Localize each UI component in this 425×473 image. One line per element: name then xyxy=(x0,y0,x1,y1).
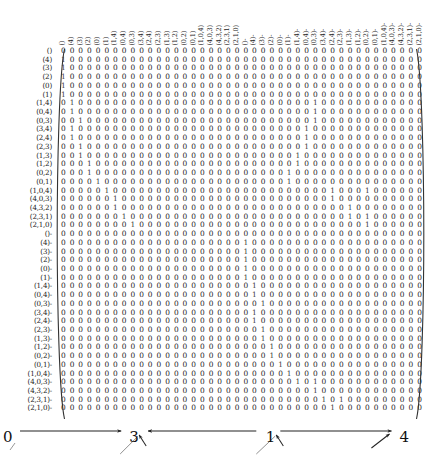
matrix-cell: 0 xyxy=(407,404,416,413)
graph-node-1: 1 xyxy=(266,430,276,445)
column-label-text: (2,3,1) xyxy=(224,25,231,46)
column-label-text: ()- xyxy=(241,39,248,46)
matrix-cell: 0 xyxy=(224,404,233,413)
column-label-text: (4) xyxy=(68,37,75,46)
matrix-cell: 1 xyxy=(328,404,337,413)
matrix-cell: 0 xyxy=(155,404,164,413)
matrix-cell: 0 xyxy=(337,404,346,413)
column-label-text: (1,3)- xyxy=(346,29,353,46)
column-label: (0,3)- xyxy=(310,0,319,46)
matrix-cell: 0 xyxy=(320,404,329,413)
column-label-text: (0,1)- xyxy=(372,29,379,46)
row-label-column: ()(4)(3)(2)(0)(1)(1,4)(0,4)(0,3)(3,4)(2,… xyxy=(0,47,54,413)
column-label-text: (2,4)- xyxy=(328,29,335,46)
column-label: (2,3,1) xyxy=(223,0,232,46)
column-label: (1,0,4) xyxy=(197,0,206,46)
column-label-text: (0)- xyxy=(276,35,283,46)
column-label: (4) xyxy=(67,0,76,46)
column-label: (1)- xyxy=(284,0,293,46)
column-label-text: (0,3)- xyxy=(311,29,318,46)
column-label-text: (1,2)- xyxy=(354,29,361,46)
column-label: (2)- xyxy=(267,0,276,46)
matrix-cell: 0 xyxy=(146,404,155,413)
column-label-text: (2,4) xyxy=(146,31,153,46)
graph-node-4: 4 xyxy=(399,430,409,445)
matrix-cell: 0 xyxy=(311,404,320,413)
matrix-cell: 0 xyxy=(181,404,190,413)
column-label-text: (2)- xyxy=(267,35,274,46)
matrix-cell: 0 xyxy=(346,404,355,413)
matrix-cell: 0 xyxy=(259,404,268,413)
column-label: (2,1,0)- xyxy=(414,0,423,46)
matrix-cell: 0 xyxy=(68,404,77,413)
column-label: (2,3,1)- xyxy=(406,0,415,46)
matrix-cell: 0 xyxy=(363,404,372,413)
column-label-text: (4,3,2) xyxy=(215,25,222,46)
column-label-text: (1,0,4) xyxy=(198,25,205,46)
column-label-text: (0) xyxy=(94,37,101,46)
column-label-text: (2,3) xyxy=(155,31,162,46)
matrix-cell: 0 xyxy=(354,404,363,413)
matrix-cell: 0 xyxy=(302,404,311,413)
column-label-text: (2,3)- xyxy=(337,29,344,46)
matrix-cell: 0 xyxy=(415,404,424,413)
column-label-text: (4,0,3)- xyxy=(389,23,396,46)
matrix-cell: 0 xyxy=(172,404,181,413)
column-label-text: (1,2) xyxy=(172,31,179,46)
matrix-cell: 0 xyxy=(85,404,94,413)
column-label-text: (1,3) xyxy=(163,31,170,46)
graph-edges xyxy=(0,424,423,473)
column-label-text: (1,4)- xyxy=(294,29,301,46)
matrix-cell: 0 xyxy=(233,404,242,413)
matrix-cell: 0 xyxy=(94,404,103,413)
graph-node-0: 0 xyxy=(3,430,13,445)
column-label: (0,2)- xyxy=(362,0,371,46)
matrix-cell: 0 xyxy=(294,404,303,413)
column-label: (0,3) xyxy=(128,0,137,46)
column-label: (1,4)- xyxy=(293,0,302,46)
column-label: (4,3,2)- xyxy=(397,0,406,46)
matrix-cell: 0 xyxy=(129,404,138,413)
column-label: (4,0,3) xyxy=(206,0,215,46)
matrix-cell: 0 xyxy=(268,404,277,413)
matrix-cell: 0 xyxy=(276,404,285,413)
column-label-text: (4,3,2)- xyxy=(398,23,405,46)
column-label: (2,4) xyxy=(145,0,154,46)
column-label-text: (2,1,0)- xyxy=(415,23,422,46)
matrix-cell: 0 xyxy=(241,404,250,413)
column-label-text: (1,0,4)- xyxy=(380,23,387,46)
column-label: (3,4)- xyxy=(319,0,328,46)
column-label-text: (0,1) xyxy=(189,31,196,46)
column-label-text: (2) xyxy=(85,37,92,46)
column-label-text: (3,4) xyxy=(137,31,144,46)
column-label-text: (1,4) xyxy=(111,31,118,46)
matrix-body: 0000000000000000000000000000000000000000… xyxy=(56,47,423,421)
column-label: (0,2) xyxy=(180,0,189,46)
matrix-cell: 0 xyxy=(372,404,381,413)
column-label: (1,3)- xyxy=(345,0,354,46)
column-label: (0,1)- xyxy=(371,0,380,46)
column-label: (2) xyxy=(84,0,93,46)
column-label: (0)- xyxy=(275,0,284,46)
column-label: (0,4) xyxy=(119,0,128,46)
matrix-cell: 0 xyxy=(285,404,294,413)
matrix-rows: 0000000000000000000000000000000000000000… xyxy=(56,47,423,413)
column-label: (2,3)- xyxy=(336,0,345,46)
column-label-text: (0,4) xyxy=(120,31,127,46)
column-label-text: (3) xyxy=(76,37,83,46)
column-label-text: (1)- xyxy=(285,35,292,46)
column-label-text: (0,2)- xyxy=(363,29,370,46)
column-label: (1,4) xyxy=(110,0,119,46)
matrix-cell: 0 xyxy=(389,404,398,413)
matrix-cell: 0 xyxy=(207,404,216,413)
matrix-cell: 0 xyxy=(189,404,198,413)
column-label: (3,4) xyxy=(136,0,145,46)
column-header-row: ()(4)(3)(2)(0)(1)(1,4)(0,4)(0,3)(3,4)(2,… xyxy=(58,0,423,46)
column-label: (1,2) xyxy=(171,0,180,46)
column-label: (2,1,0) xyxy=(232,0,241,46)
column-label: (4,0,3)- xyxy=(388,0,397,46)
matrix-cell: 0 xyxy=(250,404,259,413)
matrix-cell: 0 xyxy=(380,404,389,413)
matrix-cell: 0 xyxy=(198,404,207,413)
